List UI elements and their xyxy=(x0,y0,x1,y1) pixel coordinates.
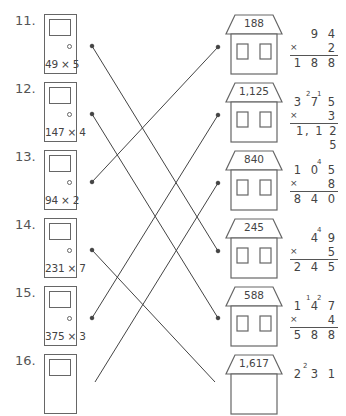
problem-number: 14. xyxy=(15,217,36,232)
calc-result: 1, 1 2 5 xyxy=(290,123,338,138)
calc-multiplier-row: ×2 xyxy=(290,41,338,55)
carry-digit: 2 xyxy=(317,294,321,302)
worked-calculation: 22 3 1 xyxy=(290,367,338,381)
carry-digit: 4 xyxy=(317,226,321,234)
problem-expression: 94 × 2 xyxy=(45,194,76,206)
door-window xyxy=(49,291,71,308)
door-knob-icon xyxy=(67,316,72,321)
connection-line-13 xyxy=(92,47,218,182)
carry-digit: 2 xyxy=(306,90,310,98)
calc-result: 2 4 5 xyxy=(290,259,338,274)
problem-number: 15. xyxy=(15,285,36,300)
house-answer: 588 xyxy=(225,289,283,301)
calc-multiplier: 5 xyxy=(328,245,338,259)
times-sign: × xyxy=(290,314,298,324)
worked-calculation: 9 4 ×2 1 8 8 xyxy=(290,27,338,70)
calc-top-row: 213 7 5 xyxy=(290,95,338,109)
house-answer: 1,617 xyxy=(225,357,283,369)
house-card: 245 xyxy=(225,218,283,278)
worked-calculation: 44 9 ×5 2 4 5 xyxy=(290,231,338,274)
door-card xyxy=(44,354,77,414)
calc-multiplier-row: ×5 xyxy=(290,245,338,259)
house-answer: 188 xyxy=(225,17,283,29)
door-knob-icon xyxy=(67,180,72,185)
calc-result: 8 4 0 xyxy=(290,191,338,206)
calc-multiplier-row: ×3 xyxy=(290,109,338,123)
problem-expression: 375 × 3 xyxy=(45,330,76,342)
calc-multiplier: 4 xyxy=(328,313,338,327)
calc-top: 3 7 5 xyxy=(294,95,338,109)
door-window xyxy=(49,359,71,376)
carry-digit: 1 xyxy=(306,294,310,302)
house-answer: 840 xyxy=(225,153,283,165)
calc-top-row: 22 3 1 xyxy=(290,367,338,381)
problem-number: 16. xyxy=(15,353,36,368)
problem-number: 11. xyxy=(15,13,36,28)
calc-top: 4 9 xyxy=(311,231,338,245)
times-sign: × xyxy=(290,110,298,120)
connection-line-14 xyxy=(92,250,215,382)
calc-top-row: 41 0 5 xyxy=(290,163,338,177)
house-card: 188 xyxy=(225,14,283,74)
calc-result: 5 8 8 xyxy=(290,327,338,342)
times-sign: × xyxy=(290,42,298,52)
calc-multiplier-row: ×4 xyxy=(290,313,338,327)
carry-digit: 1 xyxy=(317,90,321,98)
calc-multiplier-row: ×8 xyxy=(290,177,338,191)
house-card: 1,125 xyxy=(225,82,283,142)
problem-number: 12. xyxy=(15,81,36,96)
door-card: 231 × 7 xyxy=(44,218,77,278)
door-window xyxy=(49,155,71,172)
door-card: 147 × 4 xyxy=(44,82,77,142)
house-card: 840 xyxy=(225,150,283,210)
door-knob-icon xyxy=(67,112,72,117)
house-card: 1,617 xyxy=(225,354,283,414)
door-knob-icon xyxy=(67,44,72,49)
carry-digit: 2 xyxy=(303,362,307,370)
problem-number: 13. xyxy=(15,149,36,164)
door-window xyxy=(49,19,71,36)
house-answer: 245 xyxy=(225,221,283,233)
calc-multiplier: 3 xyxy=(328,109,338,123)
worked-calculation: 213 7 5 ×3 1, 1 2 5 xyxy=(290,95,338,138)
calc-top-row: 121 4 7 xyxy=(290,299,338,313)
carry-digit: 4 xyxy=(317,158,321,166)
door-card: 94 × 2 xyxy=(44,150,77,210)
door-card: 49 × 5 xyxy=(44,14,77,74)
problem-expression: 147 × 4 xyxy=(45,126,76,138)
worked-calculation: 121 4 7 ×4 5 8 8 xyxy=(290,299,338,342)
times-sign: × xyxy=(290,178,298,188)
worked-calculation: 41 0 5 ×8 8 4 0 xyxy=(290,163,338,206)
calc-result: 1 8 8 xyxy=(290,55,338,70)
times-sign: × xyxy=(290,246,298,256)
calc-top: 2 3 1 xyxy=(294,367,338,381)
door-window xyxy=(49,223,71,240)
door-window xyxy=(49,87,71,104)
house-card: 588 xyxy=(225,286,283,346)
connection-line-11 xyxy=(92,46,218,251)
problem-expression: 49 × 5 xyxy=(45,58,76,70)
calc-top: 1 0 5 xyxy=(294,163,338,177)
calc-top-row: 44 9 xyxy=(290,231,338,245)
calc-top: 9 4 xyxy=(290,27,338,41)
calc-multiplier: 2 xyxy=(328,41,338,55)
problem-expression: 231 × 7 xyxy=(45,262,76,274)
calc-top: 1 4 7 xyxy=(294,299,338,313)
calc-multiplier: 8 xyxy=(328,177,338,191)
door-card: 375 × 3 xyxy=(44,286,77,346)
house-answer: 1,125 xyxy=(225,85,283,97)
door-knob-icon xyxy=(67,248,72,253)
